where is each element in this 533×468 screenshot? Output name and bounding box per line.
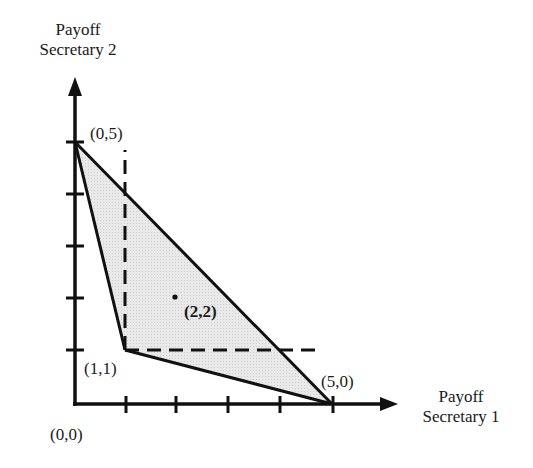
origin-label: (0,0) (50, 425, 83, 445)
x-axis-arrow-icon (380, 397, 398, 411)
x-axis-label-line2: Secretary 1 (406, 407, 516, 427)
y-axis-label-line1: Payoff (28, 20, 128, 40)
point-label-0-5: (0,5) (90, 124, 123, 144)
point-2-2-marker (172, 294, 177, 299)
point-label-5-0: (5,0) (321, 372, 354, 392)
point-label-2-2: (2,2) (184, 302, 217, 322)
y-axis-arrow-icon (68, 77, 82, 96)
x-axis-label-line1: Payoff (406, 387, 516, 407)
y-axis-label-line2: Secretary 2 (28, 40, 128, 60)
x-axis-label: Payoff Secretary 1 (406, 387, 516, 427)
point-label-1-1: (1,1) (84, 359, 117, 379)
y-axis-label: Payoff Secretary 2 (28, 20, 128, 60)
